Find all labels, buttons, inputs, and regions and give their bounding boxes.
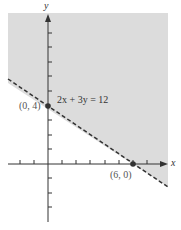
point-b-label: (6, 0): [110, 169, 132, 180]
point-0-4: [45, 103, 51, 109]
x-axis-label: x: [171, 157, 175, 168]
point-a-label: (0, 4): [19, 100, 41, 111]
point-6-0: [130, 161, 136, 167]
y-axis-label: y: [44, 0, 48, 11]
graph: [0, 0, 181, 230]
equation-label: 2x + 3y = 12: [57, 94, 108, 105]
